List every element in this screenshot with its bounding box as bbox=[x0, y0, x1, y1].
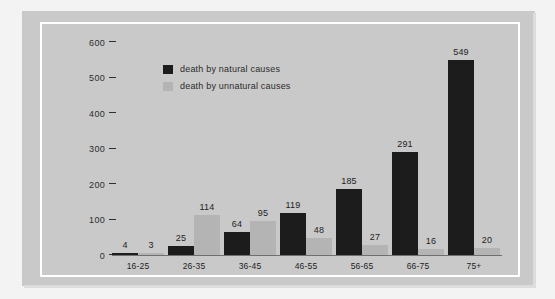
bars-layer: 4316-252511426-35649536-451194846-551852… bbox=[44, 26, 516, 273]
chart-screenshot: 0100200300400500600 death by natural cau… bbox=[0, 0, 555, 299]
bar-natural-75+ bbox=[448, 60, 474, 255]
x-axis-label-75+: 75+ bbox=[442, 261, 506, 271]
value-label-natural-36-45: 64 bbox=[220, 219, 254, 229]
card-bottom-edge bbox=[24, 285, 536, 288]
value-label-natural-46-55: 119 bbox=[276, 200, 310, 210]
x-axis-label-26-35: 26-35 bbox=[162, 261, 226, 271]
x-axis-baseline bbox=[112, 255, 502, 256]
bar-unnatural-56-65 bbox=[362, 245, 388, 255]
bar-unnatural-36-45 bbox=[250, 221, 276, 255]
bar-unnatural-75+ bbox=[474, 248, 500, 255]
value-label-natural-66-75: 291 bbox=[388, 139, 422, 149]
value-label-unnatural-46-55: 48 bbox=[302, 225, 336, 235]
card-right-edge bbox=[533, 13, 536, 288]
bar-natural-36-45 bbox=[224, 232, 250, 255]
x-axis-label-36-45: 36-45 bbox=[218, 261, 282, 271]
x-axis-label-56-65: 56-65 bbox=[330, 261, 394, 271]
bar-unnatural-26-35 bbox=[194, 215, 220, 255]
value-label-natural-26-35: 25 bbox=[164, 233, 198, 243]
bar-natural-56-65 bbox=[336, 189, 362, 255]
x-axis-label-46-55: 46-55 bbox=[274, 261, 338, 271]
x-axis-label-66-75: 66-75 bbox=[386, 261, 450, 271]
value-label-natural-56-65: 185 bbox=[332, 176, 366, 186]
x-axis-label-16-25: 16-25 bbox=[106, 261, 170, 271]
bar-natural-26-35 bbox=[168, 246, 194, 255]
value-label-unnatural-66-75: 16 bbox=[414, 236, 448, 246]
value-label-unnatural-26-35: 114 bbox=[190, 202, 224, 212]
value-label-natural-75+: 549 bbox=[444, 47, 478, 57]
value-label-unnatural-36-45: 95 bbox=[246, 208, 280, 218]
plot-area: 0100200300400500600 death by natural cau… bbox=[44, 26, 516, 273]
value-label-unnatural-16-25: 3 bbox=[134, 240, 168, 250]
value-label-unnatural-75+: 20 bbox=[470, 235, 504, 245]
bar-unnatural-46-55 bbox=[306, 238, 332, 255]
value-label-unnatural-56-65: 27 bbox=[358, 232, 392, 242]
